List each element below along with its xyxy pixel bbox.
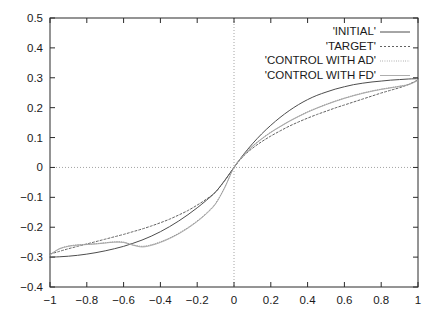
x-tick-label: 0.4 [300,294,317,306]
x-tick-label: 0.6 [336,294,352,306]
y-tick-label: 0.2 [27,102,43,114]
line-chart: −1−0.8−0.6−0.4−0.200.20.40.60.81 −0.4−0.… [0,0,430,321]
chart-root: −1−0.8−0.6−0.4−0.200.20.40.60.81 −0.4−0.… [0,0,430,321]
x-tick-label: 0 [231,294,237,306]
x-tick-label: −0.4 [149,294,172,306]
y-tick-label: −0.2 [20,221,43,233]
legend-label-0: 'INITIAL' [333,25,376,37]
x-tick-label: −1 [43,294,56,306]
x-tick-label: −0.8 [75,294,98,306]
y-tick-label: 0.4 [27,42,44,54]
x-tick-label: 1 [415,294,421,306]
y-tick-label: 0.5 [27,12,43,24]
x-tick-label: −0.2 [186,294,209,306]
legend-label-1: 'TARGET' [326,40,376,52]
x-tick-label: 0.8 [373,294,389,306]
legend-label-3: 'CONTROL WITH FD' [265,69,376,81]
x-tick-label: −0.6 [112,294,135,306]
y-tick-label: 0 [37,161,43,173]
y-tick-label: −0.3 [20,251,43,263]
y-tick-label: −0.1 [20,191,43,203]
legend-label-2: 'CONTROL WITH AD' [265,54,376,66]
y-tick-label: 0.3 [27,72,43,84]
y-tick-label: −0.4 [20,281,43,293]
y-tick-label: 0.1 [27,132,43,144]
x-tick-label: 0.2 [263,294,279,306]
